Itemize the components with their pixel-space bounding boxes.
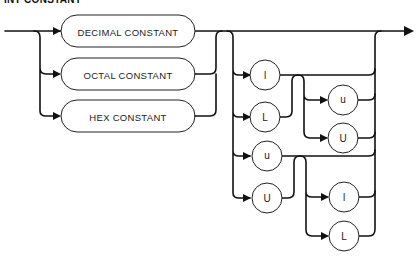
track: [282, 150, 375, 156]
svg-text:HEX CONSTANT: HEX CONSTANT: [89, 112, 166, 123]
merge-track: [195, 31, 222, 116]
track: [280, 75, 326, 138]
svg-text:l: l: [343, 192, 345, 203]
syntax-diagram: DECIMAL CONSTANT OCTAL CONSTANT HEX CONS…: [0, 0, 420, 260]
exit-arrow-icon: [404, 26, 414, 36]
arrow-icon: [321, 232, 329, 240]
track: [280, 69, 375, 75]
arrow-icon: [321, 193, 329, 201]
suffix-l-node: l: [329, 182, 359, 212]
suffix-U-node: U: [328, 123, 358, 153]
suffix-U-node: U: [252, 183, 282, 213]
arrow-icon: [320, 134, 328, 142]
svg-text:U: U: [339, 133, 346, 144]
suffix-branch-track: [227, 31, 250, 198]
svg-text:L: L: [262, 112, 268, 123]
track: [359, 191, 375, 197]
svg-text:DECIMAL CONSTANT: DECIMAL CONSTANT: [78, 27, 179, 38]
track: [358, 94, 375, 138]
arrow-icon: [53, 70, 61, 78]
octal-constant-node: OCTAL CONSTANT: [61, 58, 195, 90]
suffix-l-node: l: [250, 60, 280, 90]
svg-text:U: U: [263, 193, 270, 204]
hex-constant-node: HEX CONSTANT: [61, 100, 195, 132]
svg-text:l: l: [264, 70, 266, 81]
svg-text:u: u: [340, 94, 346, 105]
arrow-icon: [320, 96, 328, 104]
decimal-constant-node: DECIMAL CONSTANT: [61, 15, 195, 47]
suffix-u-node: u: [328, 85, 358, 115]
suffix-L-node: L: [329, 221, 359, 251]
svg-text:u: u: [264, 150, 270, 161]
arrow-icon: [53, 112, 61, 120]
right-merge-track: [359, 31, 381, 236]
arrow-icon: [53, 27, 61, 35]
arrow-icon: [243, 194, 251, 202]
svg-text:OCTAL CONSTANT: OCTAL CONSTANT: [84, 70, 173, 81]
svg-text:L: L: [341, 231, 347, 242]
suffix-L-node: L: [250, 102, 280, 132]
arrow-icon: [243, 152, 251, 160]
track: [282, 156, 327, 236]
suffix-u-node: u: [252, 141, 282, 171]
